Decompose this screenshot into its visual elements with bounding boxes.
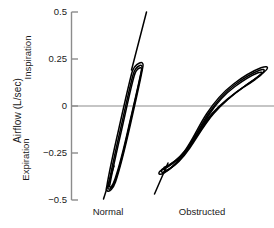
obstructed-flow-loop: [155, 67, 268, 194]
plot-area: [0, 0, 274, 228]
flow-loop-chart: Airflow (L/sec) Inspiration Expiration 0…: [0, 0, 274, 228]
